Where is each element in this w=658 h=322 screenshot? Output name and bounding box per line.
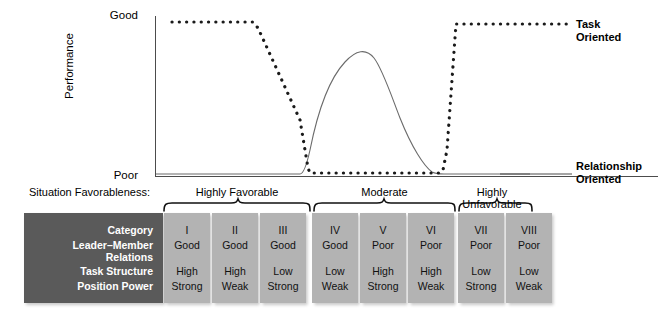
cell-task-structure: Low: [260, 265, 306, 277]
cell-position-power: Strong: [164, 280, 210, 292]
legend-task-oriented: Task Oriented: [576, 18, 621, 43]
y-axis-title: Performance: [63, 0, 75, 136]
cell-position-power: Strong: [458, 280, 504, 292]
legend-relationship-oriented: Relationship Oriented: [576, 160, 642, 185]
table-column-3: III Good Low Strong: [260, 213, 306, 303]
cell-leader-member: Poor: [458, 239, 504, 251]
fiedler-contingency-chart: Good Poor Performance Task Oriented Rela…: [0, 0, 658, 322]
cell-leader-member: Good: [164, 239, 210, 251]
cell-position-power: Weak: [312, 280, 358, 292]
table-column-7: VII Poor Low Strong: [458, 213, 504, 303]
table-column-4: IV Good Low Weak: [312, 213, 358, 303]
cell-task-structure: High: [360, 265, 406, 277]
contingency-table: Category Leader–Member Relations Task St…: [24, 213, 534, 305]
situation-favorableness-label: Situation Favorableness:: [0, 186, 150, 198]
cell-position-power: Weak: [408, 280, 454, 292]
table-column-1: I Good High Strong: [164, 213, 210, 303]
cell-task-structure: Low: [506, 265, 552, 277]
cell-leader-member: Good: [260, 239, 306, 251]
cell-leader-member: Poor: [408, 239, 454, 251]
cell-task-structure: High: [164, 265, 210, 277]
row-label-leader-member-line1: Leader–Member: [33, 240, 153, 252]
y-axis-line: [155, 16, 156, 177]
cell-task-structure: Low: [312, 265, 358, 277]
relationship-oriented-curve: [156, 52, 530, 174]
favorableness-group-highly-unfavorable: Highly Unfavorable: [452, 186, 532, 210]
cell-position-power: Weak: [212, 280, 258, 292]
row-label-category: Category: [107, 225, 153, 237]
legend-relationship-line1: Relationship: [576, 160, 642, 173]
legend-task-line2: Oriented: [576, 31, 621, 44]
cell-category: I: [164, 224, 210, 236]
table-row-label-panel: Category Leader–Member Relations Task St…: [24, 213, 163, 303]
cell-category: IV: [312, 224, 358, 236]
cell-leader-member: Good: [212, 239, 258, 251]
table-column-8: VIII Poor Low Weak: [506, 213, 552, 303]
cell-position-power: Strong: [360, 280, 406, 292]
cell-task-structure: High: [212, 265, 258, 277]
table-column-2: II Good High Weak: [212, 213, 258, 303]
cell-category: III: [260, 224, 306, 236]
row-label-leader-member-line2: Relations: [33, 252, 153, 264]
cell-category: VIII: [506, 224, 552, 236]
cell-category: VI: [408, 224, 454, 236]
favorableness-group-moderate: Moderate: [313, 186, 456, 198]
cell-task-structure: Low: [458, 265, 504, 277]
cell-category: VII: [458, 224, 504, 236]
cell-leader-member: Poor: [360, 239, 406, 251]
cell-category: V: [360, 224, 406, 236]
row-label-task-structure: Task Structure: [80, 266, 153, 278]
task-oriented-curve: [172, 22, 570, 173]
cell-position-power: Weak: [506, 280, 552, 292]
table-column-6: VI Poor High Weak: [408, 213, 454, 303]
favorableness-group-highly-favorable: Highly Favorable: [163, 186, 311, 198]
cell-task-structure: High: [408, 265, 454, 277]
cell-leader-member: Poor: [506, 239, 552, 251]
y-axis-tick-good: Good: [78, 9, 138, 21]
cell-leader-member: Good: [312, 239, 358, 251]
table-column-5: V Poor High Strong: [360, 213, 406, 303]
row-label-position-power: Position Power: [77, 281, 153, 293]
cell-category: II: [212, 224, 258, 236]
legend-relationship-line2: Oriented: [576, 173, 642, 186]
legend-task-line1: Task: [576, 18, 621, 31]
cell-position-power: Strong: [260, 280, 306, 292]
row-label-leader-member-relations: Leader–Member Relations: [33, 240, 153, 263]
y-axis-tick-poor: Poor: [78, 169, 138, 181]
